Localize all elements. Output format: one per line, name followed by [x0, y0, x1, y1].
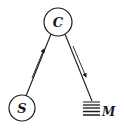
- edge-line-c-m: [65, 34, 92, 101]
- node-m-label: M: [101, 105, 116, 119]
- diagram-canvas: C S M: [0, 0, 124, 132]
- arrow-up-icon: [32, 49, 44, 78]
- node-c: C: [44, 8, 72, 36]
- edge-c-s: [26, 34, 51, 96]
- node-c-label: C: [53, 15, 64, 30]
- node-s-label: S: [17, 101, 26, 116]
- node-s: S: [9, 95, 35, 121]
- edge-c-m: [65, 34, 92, 101]
- arrow-down-icon: [73, 46, 86, 77]
- node-m: M: [83, 102, 116, 119]
- edge-line-c-s: [26, 34, 51, 96]
- memory-stack-icon: [83, 102, 100, 115]
